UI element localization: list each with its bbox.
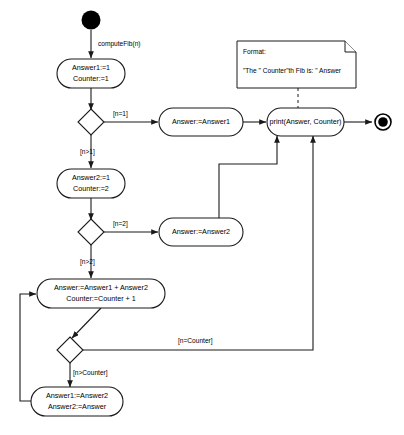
note-line1: Format: [243,48,266,55]
activity-node-print[interactable]: print(Answer, Counter) [267,108,344,136]
note-format: Format: "The " Counter"th Fib is: " Answ… [237,41,356,88]
edge-label-n-eq-2: [n=2] [113,220,128,228]
activity-node-answer1-label: Answer:=Answer1 [172,117,230,126]
edge-label-n-eq-1: [n=1] [113,110,128,118]
final-node [375,114,391,130]
decision-node-n-equals-1[interactable] [78,109,104,135]
activity-node-init[interactable]: Answer1:=1 Counter:=1 [57,59,125,88]
edge-label-n-gt-2: [n>2] [80,258,95,266]
activity-node-init2-line2: Counter:=2 [73,184,109,193]
edge-label-n-eq-counter: [n=Counter] [178,337,213,345]
activity-node-answer2[interactable]: Answer:=Answer2 [159,218,243,246]
edge-sum-to-decision3 [72,308,101,338]
edge-label-start: computeFib(n) [98,40,141,48]
activity-node-answer1[interactable]: Answer:=Answer1 [159,108,243,136]
activity-node-sum-line1: Answer:=Answer1 + Answer2 [54,283,148,292]
activity-node-shift-line1: Answer1:=Answer2 [46,391,108,400]
edge-answer2-to-print [219,136,277,218]
activity-node-sum[interactable]: Answer:=Answer1 + Answer2 Counter:=Count… [37,279,165,308]
decision-node-n-equals-counter[interactable] [57,337,83,363]
activity-node-sum-line2: Counter:=Counter + 1 [66,294,136,303]
activity-node-init-line1: Answer1:=1 [72,63,110,72]
activity-node-init2[interactable]: Answer2:=1 Counter:=2 [57,169,125,198]
initial-node [82,11,101,30]
activity-diagram-canvas: Answer1:=1 Counter:=1 Answer:=Answer1 pr… [0,0,404,435]
edge-shift-to-sum-loop [20,294,36,401]
note-line2: "The " Counter"th Fib is: " Answer [243,67,342,74]
activity-node-answer2-label: Answer:=Answer2 [172,227,230,236]
activity-node-print-label: print(Answer, Counter) [270,117,342,126]
edge-label-n-gt-1: [n>1] [80,148,95,156]
activity-node-shift[interactable]: Answer1:=Answer2 Answer2:=Answer [31,387,123,416]
activity-node-init-line2: Counter:=1 [73,74,109,83]
activity-node-shift-line2: Answer2:=Answer [48,402,107,411]
activity-node-init2-line1: Answer2:=1 [72,173,110,182]
decision-node-n-equals-2[interactable] [78,219,104,245]
edge-label-n-gt-counter: [n>Counter] [73,369,108,377]
